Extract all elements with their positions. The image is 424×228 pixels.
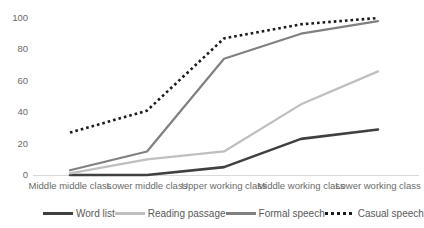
x-tick-label: Lower working class xyxy=(333,180,423,192)
series-line xyxy=(70,21,378,170)
legend-swatch-solid-icon xyxy=(43,208,73,218)
series-line xyxy=(70,18,378,133)
x-axis-baseline xyxy=(33,175,419,176)
legend-label: Formal speech xyxy=(259,208,325,219)
y-tick-label: 40 xyxy=(17,107,28,117)
legend-item-word-list[interactable]: Word list xyxy=(43,208,115,219)
legend-label: Reading passage xyxy=(148,208,226,219)
y-tick-label: 60 xyxy=(17,76,28,86)
chart-legend: Word list Reading passage Formal speech … xyxy=(33,205,419,221)
legend-label: Word list xyxy=(76,208,115,219)
y-axis: 100 80 60 40 20 0 xyxy=(0,0,33,190)
legend-swatch-dotted-icon xyxy=(325,208,355,218)
y-tick-label: 0 xyxy=(23,170,28,180)
series-line xyxy=(70,129,378,175)
legend-item-formal-speech[interactable]: Formal speech xyxy=(226,208,325,219)
y-tick-label: 80 xyxy=(17,44,28,54)
y-tick-label: 100 xyxy=(12,13,28,23)
legend-swatch-solid-icon xyxy=(226,208,256,218)
legend-label: Casual speech xyxy=(358,208,424,219)
legend-swatch-solid-icon xyxy=(115,208,145,218)
legend-item-reading-passage[interactable]: Reading passage xyxy=(115,208,226,219)
y-tick-label: 20 xyxy=(17,139,28,149)
legend-item-casual-speech[interactable]: Casual speech xyxy=(325,208,424,219)
series-line xyxy=(70,71,378,173)
